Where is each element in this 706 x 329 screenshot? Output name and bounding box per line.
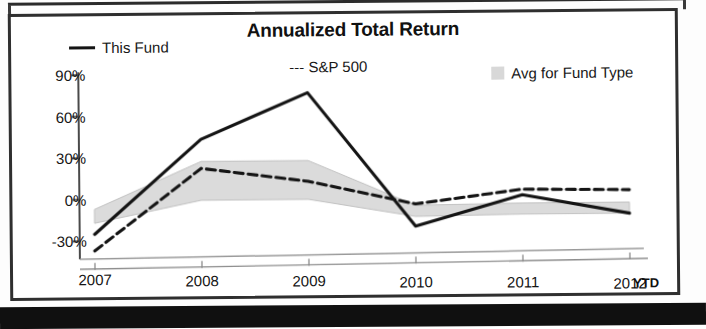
x-tick-label: 2010 [399,273,433,290]
x-tick-label: 2008 [185,272,219,289]
x-tick-label: 2007 [78,271,112,288]
x-axis-tick-labels: 200720082009201020112012 [13,264,677,300]
x-tick-label: 2011 [507,274,539,291]
y-tick-label: 0% [65,191,87,208]
page-bottom-bar [0,303,706,329]
x-tick-label: 2009 [292,272,326,289]
y-axis-tick-labels: 90%60%30%0%-30% [23,16,87,298]
y-tick-label: 30% [56,150,86,167]
ytd-annotation: YTD [633,275,659,290]
chart-graphic [11,11,677,298]
y-tick-label: 60% [56,108,86,125]
y-tick-label: -30% [52,233,87,250]
plot-area: Annualized Total Return This Fund --- S&… [11,11,677,298]
chart-panel: Annualized Total Return This Fund --- S&… [8,8,680,301]
y-tick-label: 90% [55,67,85,84]
